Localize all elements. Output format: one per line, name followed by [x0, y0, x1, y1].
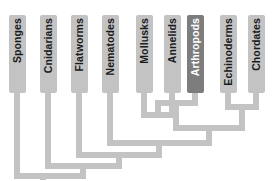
taxon-box-sponges[interactable]: Sponges	[9, 15, 26, 93]
taxon-box-annelids[interactable]: Annelids	[164, 15, 181, 93]
taxon-label-flatworms: Flatworms	[74, 18, 85, 71]
taxon-label-mollusks: Mollusks	[139, 18, 150, 64]
taxon-box-echinoderms[interactable]: Echinoderms	[220, 15, 237, 93]
taxon-label-nematodes: Nematodes	[105, 18, 116, 76]
taxon-label-chordates: Chordates	[251, 18, 262, 71]
taxon-box-flatworms[interactable]: Flatworms	[71, 15, 88, 93]
taxon-label-echinoderms: Echinoderms	[223, 18, 234, 86]
taxon-box-chordates[interactable]: Chordates	[248, 15, 265, 93]
taxon-label-cnidarians: Cnidarians	[43, 18, 54, 73]
taxon-box-arthropods[interactable]: Arthropods	[187, 15, 204, 93]
taxon-box-cnidarians[interactable]: Cnidarians	[40, 15, 57, 93]
taxon-label-annelids: Annelids	[167, 18, 178, 63]
cladogram-diagram: SpongesCnidariansFlatwormsNematodesMollu…	[0, 0, 278, 181]
taxon-label-sponges: Sponges	[12, 18, 23, 63]
taxon-box-nematodes[interactable]: Nematodes	[102, 15, 119, 93]
taxon-label-arthropods: Arthropods	[190, 18, 201, 76]
taxon-box-mollusks[interactable]: Mollusks	[136, 15, 153, 93]
